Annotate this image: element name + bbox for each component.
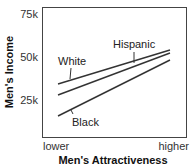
x-tick-lower: lower bbox=[43, 140, 70, 152]
label-hispanic: Hispanic bbox=[113, 38, 156, 50]
x-tick-higher: higher bbox=[158, 140, 189, 152]
y-tick-75k: 75k bbox=[20, 8, 38, 20]
label-black: Black bbox=[72, 116, 99, 128]
leader-black bbox=[71, 110, 73, 114]
y-tick-25k: 25k bbox=[20, 94, 38, 106]
y-tick-50k: 50k bbox=[20, 51, 38, 63]
income-attractiveness-chart: 75k 50k 25k Men's Income lower higher Me… bbox=[0, 0, 191, 167]
plot-frame bbox=[43, 8, 187, 138]
label-white: White bbox=[58, 55, 86, 67]
leader-white bbox=[70, 68, 71, 79]
x-axis-title: Men's Attractiveness bbox=[58, 154, 167, 166]
y-axis-title: Men's Income bbox=[3, 36, 15, 108]
